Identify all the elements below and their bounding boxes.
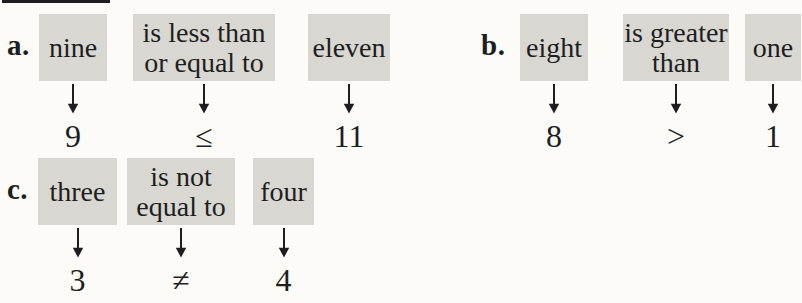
phrase-line: or equal to bbox=[144, 48, 264, 78]
phrase-box: nine bbox=[39, 14, 107, 81]
phrase-line: one bbox=[753, 33, 793, 63]
down-arrow-icon bbox=[171, 228, 191, 258]
phrase-line: eleven bbox=[312, 33, 385, 63]
down-arrow-icon bbox=[544, 84, 564, 114]
phrase-line: is greater bbox=[624, 18, 727, 48]
math-symbol: ≠ bbox=[172, 263, 190, 297]
math-symbol: 4 bbox=[276, 263, 292, 297]
phrase-box: eight bbox=[520, 14, 588, 81]
phrase-line: equal to bbox=[136, 192, 225, 222]
phrase-line: is not bbox=[150, 162, 211, 192]
phrase-line: nine bbox=[49, 33, 97, 63]
phrase-box: is not equal to bbox=[127, 158, 235, 225]
down-arrow-icon bbox=[68, 228, 88, 258]
example-label-c: c. bbox=[7, 175, 28, 204]
phrase-line: is less than bbox=[143, 18, 266, 48]
term-b-left: eight 8 bbox=[520, 14, 588, 153]
term-c-right: four 4 bbox=[253, 158, 314, 297]
phrase-line: eight bbox=[526, 33, 582, 63]
math-symbol: > bbox=[667, 119, 685, 153]
down-arrow-icon bbox=[274, 228, 294, 258]
phrase-box: is less than or equal to bbox=[133, 14, 275, 81]
down-arrow-icon bbox=[666, 84, 686, 114]
phrase-box: one bbox=[745, 14, 801, 81]
down-arrow-icon bbox=[194, 84, 214, 114]
down-arrow-icon bbox=[763, 84, 783, 114]
term-a-left: nine 9 bbox=[39, 14, 107, 153]
example-label-b: b. bbox=[481, 31, 505, 60]
down-arrow-icon bbox=[339, 84, 359, 114]
down-arrow-icon bbox=[63, 84, 83, 114]
math-symbol: 8 bbox=[546, 119, 562, 153]
phrase-line: four bbox=[260, 177, 307, 207]
term-b-middle: is greater than > bbox=[623, 14, 729, 153]
math-symbol: 1 bbox=[765, 119, 781, 153]
term-c-middle: is not equal to ≠ bbox=[127, 158, 235, 297]
math-symbol: 3 bbox=[70, 263, 86, 297]
math-symbol: 9 bbox=[65, 119, 81, 153]
phrase-box: four bbox=[253, 158, 314, 225]
phrase-box: eleven bbox=[308, 14, 390, 81]
term-a-middle: is less than or equal to ≤ bbox=[133, 14, 275, 153]
textbook-solution-panel: a. nine 9 is less than or equal to ≤ ele… bbox=[0, 0, 802, 303]
term-a-right: eleven 11 bbox=[308, 14, 390, 153]
term-b-right: one 1 bbox=[745, 14, 801, 153]
phrase-box: is greater than bbox=[623, 14, 729, 81]
heading-underline-rule bbox=[2, 0, 110, 3]
phrase-line: three bbox=[50, 177, 106, 207]
phrase-box: three bbox=[38, 158, 117, 225]
math-symbol: ≤ bbox=[195, 119, 213, 153]
phrase-line: than bbox=[652, 48, 700, 78]
math-symbol: 11 bbox=[334, 119, 365, 153]
term-c-left: three 3 bbox=[38, 158, 117, 297]
example-label-a: a. bbox=[7, 31, 30, 60]
